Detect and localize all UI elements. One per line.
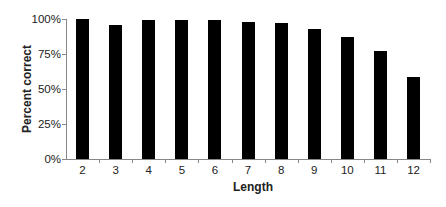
x-tick-mark: [364, 159, 365, 163]
x-tick-label: 5: [179, 164, 185, 176]
y-tick-label: 25%: [38, 118, 61, 130]
x-tick-mark: [430, 159, 431, 163]
y-tick-label: 75%: [38, 48, 61, 60]
y-tick-label: 50%: [38, 83, 61, 95]
x-tick-mark: [232, 159, 233, 163]
bar-length-8: [275, 23, 288, 159]
bar-length-2: [76, 19, 89, 159]
y-tick-label: 0%: [44, 153, 61, 165]
bar-length-9: [308, 29, 321, 159]
x-tick-label: 4: [146, 164, 152, 176]
bar-length-6: [208, 20, 221, 159]
x-axis-line: [62, 159, 430, 160]
x-axis-label: Length: [0, 180, 446, 194]
bar-length-12: [407, 77, 420, 159]
x-tick-mark: [198, 159, 199, 163]
x-tick-label: 7: [245, 164, 251, 176]
x-tick-mark: [331, 159, 332, 163]
bar-length-4: [142, 20, 155, 159]
x-tick-label: 2: [79, 164, 85, 176]
x-tick-label: 10: [341, 164, 354, 176]
x-tick-mark: [397, 159, 398, 163]
x-tick-mark: [132, 159, 133, 163]
bar-length-5: [175, 20, 188, 159]
x-tick-label: 6: [212, 164, 218, 176]
x-tick-label: 3: [112, 164, 118, 176]
bar-chart: Percent correct 0%25%50%75%100% 23456789…: [0, 0, 446, 207]
x-tick-mark: [265, 159, 266, 163]
x-tick-label: 11: [374, 164, 386, 176]
x-tick-label: 8: [278, 164, 284, 176]
bar-length-7: [242, 22, 255, 159]
bar-length-3: [109, 25, 122, 159]
y-tick-label: 100%: [32, 13, 61, 25]
y-axis-label: Percent correct: [20, 45, 34, 133]
x-tick-mark: [165, 159, 166, 163]
bar-length-11: [374, 51, 387, 159]
x-tick-mark: [99, 159, 100, 163]
x-tick-label: 12: [407, 164, 420, 176]
y-axis-line: [66, 19, 67, 160]
x-tick-label: 9: [311, 164, 317, 176]
x-tick-mark: [298, 159, 299, 163]
bar-length-10: [341, 37, 354, 160]
